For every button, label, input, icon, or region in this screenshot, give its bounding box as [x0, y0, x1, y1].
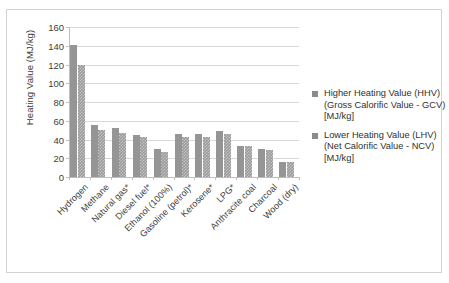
chart-frame: Heating Value (MJ/kg) 020406080100120140…	[6, 9, 442, 273]
bar-lhv	[161, 152, 168, 177]
x-tick-mark	[278, 177, 279, 180]
bar-group	[278, 27, 299, 177]
bar-hhv	[258, 149, 265, 177]
x-tick-mark	[90, 177, 91, 180]
bar-lhv	[119, 133, 126, 177]
y-tick-label: 80	[53, 97, 64, 108]
legend-lhv-line2: (Net Calorific Value - NCV)	[324, 141, 438, 153]
legend-hhv-line1: Higher Heating Value (HHV)	[324, 88, 438, 100]
x-tick-mark	[69, 177, 70, 180]
y-tick-label: 160	[48, 22, 64, 33]
x-axis-labels: HydrogenMethaneNatural gas*Diesel fuel*E…	[69, 180, 299, 270]
bar-hhv	[216, 131, 223, 177]
bar-hhv	[154, 149, 161, 177]
y-tick-label: 140	[48, 40, 64, 51]
bar-hhv	[112, 128, 119, 177]
y-tick-label: 40	[53, 134, 64, 145]
y-tick-label: 60	[53, 115, 64, 126]
bar-hhv	[70, 45, 77, 177]
bar-lhv	[98, 130, 105, 177]
bar-lhv	[182, 137, 189, 177]
bar-hhv	[237, 146, 244, 177]
legend-item-hhv: Higher Heating Value (HHV) (Gross Calori…	[312, 88, 438, 123]
bar-group	[153, 27, 174, 177]
y-tick-label: 100	[48, 78, 64, 89]
bar-group	[194, 27, 215, 177]
bar-lhv	[224, 134, 231, 177]
legend-hhv-line3: [MJ/kg]	[324, 111, 438, 123]
bar-lhv	[203, 137, 210, 177]
y-tick-label: 0	[59, 172, 64, 183]
legend-swatch-hhv-icon	[312, 91, 318, 97]
legend-hhv-line2: (Gross Calorific Value - GCV)	[324, 100, 438, 112]
bar-lhv	[78, 65, 85, 178]
bar-group	[236, 27, 257, 177]
bar-group	[69, 27, 90, 177]
legend-lhv-line3: [MJ/kg]	[324, 153, 438, 165]
bar-hhv	[195, 134, 202, 177]
x-tick-mark	[153, 177, 154, 180]
bar-group	[215, 27, 236, 177]
y-tick-label: 20	[53, 153, 64, 164]
x-tick-mark	[299, 177, 300, 180]
bar-group	[132, 27, 153, 177]
legend-lhv-line1: Lower Heating Value (LHV)	[324, 130, 438, 142]
bar-group	[90, 27, 111, 177]
bar-series-container	[69, 27, 299, 177]
bar-hhv	[175, 134, 182, 177]
bar-hhv	[91, 125, 98, 177]
bar-lhv	[266, 150, 273, 177]
plot-area: 020406080100120140160	[69, 27, 299, 177]
bar-lhv	[287, 162, 294, 177]
y-axis-title: Heating Value (MJ/kg)	[24, 18, 35, 138]
bar-group	[111, 27, 132, 177]
legend-item-lhv: Lower Heating Value (LHV) (Net Calorific…	[312, 130, 438, 165]
x-tick-mark	[194, 177, 195, 180]
x-tick-mark	[111, 177, 112, 180]
x-tick-mark	[174, 177, 175, 180]
x-tick-mark	[215, 177, 216, 180]
chart-legend: Higher Heating Value (HHV) (Gross Calori…	[312, 88, 438, 171]
bar-group	[174, 27, 195, 177]
bar-lhv	[245, 146, 252, 177]
bar-group	[257, 27, 278, 177]
bar-hhv	[279, 162, 286, 177]
gridline	[69, 177, 299, 178]
legend-swatch-lhv-icon	[312, 133, 318, 139]
x-tick-mark	[236, 177, 237, 180]
bar-lhv	[140, 137, 147, 177]
x-tick-mark	[132, 177, 133, 180]
x-tick-mark	[257, 177, 258, 180]
y-tick-label: 120	[48, 59, 64, 70]
bar-hhv	[133, 135, 140, 177]
